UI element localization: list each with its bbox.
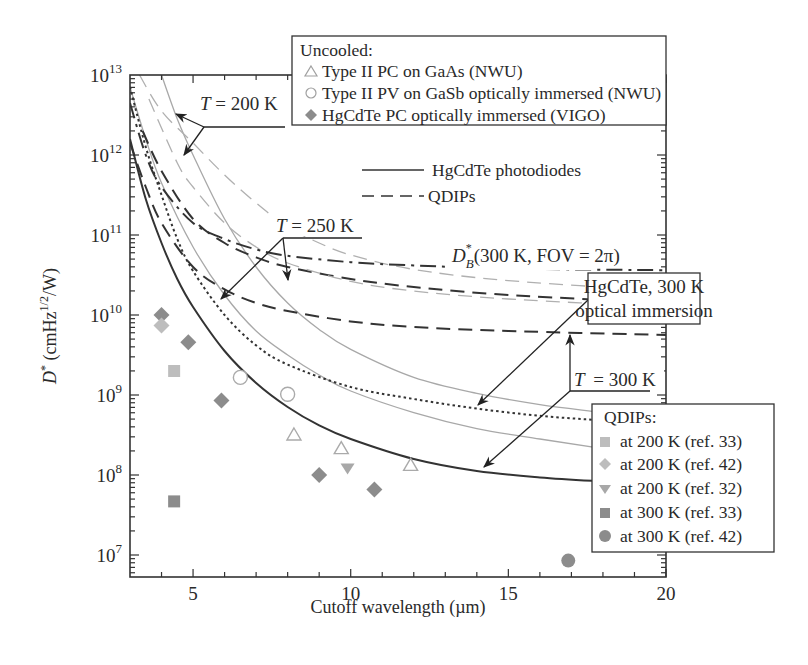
x-tick-label: 5 — [188, 583, 198, 604]
triangle-open-marker — [287, 428, 301, 440]
y-tick-label: 109 — [97, 381, 123, 406]
circle-open-marker — [233, 370, 247, 384]
y-tick-label: 1013 — [90, 61, 122, 86]
y-tick-label: 1012 — [90, 141, 122, 166]
annotation-t200: T = 200 K — [176, 92, 286, 155]
svg-text:at 200 K (ref. 42): at 200 K (ref. 42) — [620, 454, 742, 474]
svg-text:HgCdTe photodiodes: HgCdTe photodiodes — [432, 160, 581, 180]
svg-text:HgCdTe, 300 K: HgCdTe, 300 K — [584, 276, 705, 297]
svg-text:at 300 K (ref. 42): at 300 K (ref. 42) — [620, 526, 742, 546]
square-marker — [168, 365, 180, 377]
triangle-open-marker — [334, 442, 348, 454]
legend-uncooled: Uncooled: Type II PC on GaAs (NWU) Type … — [292, 36, 666, 125]
diamond-marker — [154, 317, 170, 333]
triangle-down-marker — [341, 464, 355, 475]
svg-text:at 200 K (ref. 33): at 200 K (ref. 33) — [620, 431, 742, 451]
circle-marker — [561, 554, 575, 568]
series-line-1 — [130, 87, 666, 457]
y-axis-title: D* (cmHz1/2/W) — [37, 268, 61, 385]
legend-qdips: QDIPs: at 200 K (ref. 33) at 200 K (ref.… — [592, 404, 774, 552]
svg-text:Type II PV on GaSb optically i: Type II PV on GaSb optically immersed (N… — [322, 83, 661, 103]
y-tick-label: 108 — [97, 461, 123, 486]
svg-text:T = 250 K: T = 250 K — [276, 215, 354, 236]
diamond-marker — [311, 467, 327, 483]
diamond-marker — [366, 481, 382, 497]
svg-text:D* (cmHz1/2/W): D* (cmHz1/2/W) — [37, 268, 61, 385]
legend-line-styles: HgCdTe photodiodes QDIPs — [362, 160, 581, 206]
diamond-marker — [180, 334, 196, 350]
annotation-t250: T = 250 K — [221, 212, 364, 299]
svg-text:at 300 K (ref. 33): at 300 K (ref. 33) — [620, 502, 742, 522]
x-axis-title: Cutoff wavelength (µm) — [311, 597, 486, 618]
svg-text:QDIPs: QDIPs — [428, 186, 476, 206]
y-tick-labels: 1071081091010101110121013 — [90, 61, 123, 566]
svg-text:Uncooled:: Uncooled: — [300, 40, 373, 60]
circle-open-marker — [281, 387, 295, 401]
svg-text:QDIPs:: QDIPs: — [604, 407, 657, 427]
diamond-marker — [213, 393, 229, 409]
detectivity-chart: 1071081091010101110121013 5101520 Cutoff… — [0, 0, 808, 665]
svg-text:HgCdTe PC optically immersed (: HgCdTe PC optically immersed (VIGO) — [322, 105, 606, 125]
square-icon — [600, 508, 610, 518]
svg-text:optical immersion: optical immersion — [575, 300, 713, 321]
y-tick-label: 1010 — [90, 301, 122, 326]
x-tick-label: 15 — [499, 583, 518, 604]
svg-text:Type II PC on GaAs (NWU): Type II PC on GaAs (NWU) — [322, 61, 523, 81]
square-marker — [168, 495, 180, 507]
square-icon — [600, 437, 610, 447]
annotation-dblip: D*B(300 K, FOV = 2π) — [448, 240, 620, 271]
svg-text:T = 200 K: T = 200 K — [200, 93, 278, 114]
data-markers — [154, 307, 576, 568]
x-tick-label: 20 — [657, 583, 676, 604]
circle-icon — [599, 530, 611, 542]
y-tick-label: 107 — [97, 541, 123, 566]
y-tick-label: 1011 — [90, 221, 122, 246]
svg-text:at 200 K (ref. 32): at 200 K (ref. 32) — [620, 478, 742, 498]
